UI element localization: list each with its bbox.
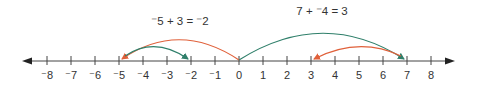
tick-label: 4 [332,69,338,81]
jump-arc-jump-0-to-neg5 [122,40,239,60]
right-arrow-icon [445,58,455,65]
left-arrow-icon [22,58,32,65]
equation-label-right: 7 + ⁻4 = 3 [296,5,347,17]
tick-label: ⁻1 [209,69,221,81]
tick-label: 3 [308,69,314,81]
tick-label: ⁻5 [113,69,125,81]
tick-label: ⁻2 [185,69,197,81]
tick-label: ⁻4 [137,69,149,81]
jump-arc-jump-neg5-to-neg2 [125,47,188,59]
tick-label: ⁻3 [161,69,173,81]
tick-label: ⁻8 [41,69,53,81]
equation-labels: ⁻5 + 3 = ⁻2 7 + ⁻4 = 3 [151,5,347,27]
equation-label-left: ⁻5 + 3 = ⁻2 [151,15,208,27]
tick-label: 7 [404,69,410,81]
tick-label: 0 [236,69,242,81]
tick-label: ⁻7 [65,69,77,81]
tick-labels: ⁻8⁻7⁻6⁻5⁻4⁻3⁻2⁻1012345678 [41,69,434,81]
tick-label: 2 [284,69,290,81]
number-line-diagram: ⁻8⁻7⁻6⁻5⁻4⁻3⁻2⁻1012345678 ⁻5 + 3 = ⁻2 7 … [0,0,478,86]
tick-label: 5 [356,69,362,81]
tick-label: 1 [260,69,266,81]
tick-label: 8 [428,69,434,81]
jump-arc-jump-7-to-3 [314,47,401,59]
tick-label: ⁻6 [89,69,101,81]
jump-arcs [122,33,404,60]
tick-label: 6 [380,69,386,81]
